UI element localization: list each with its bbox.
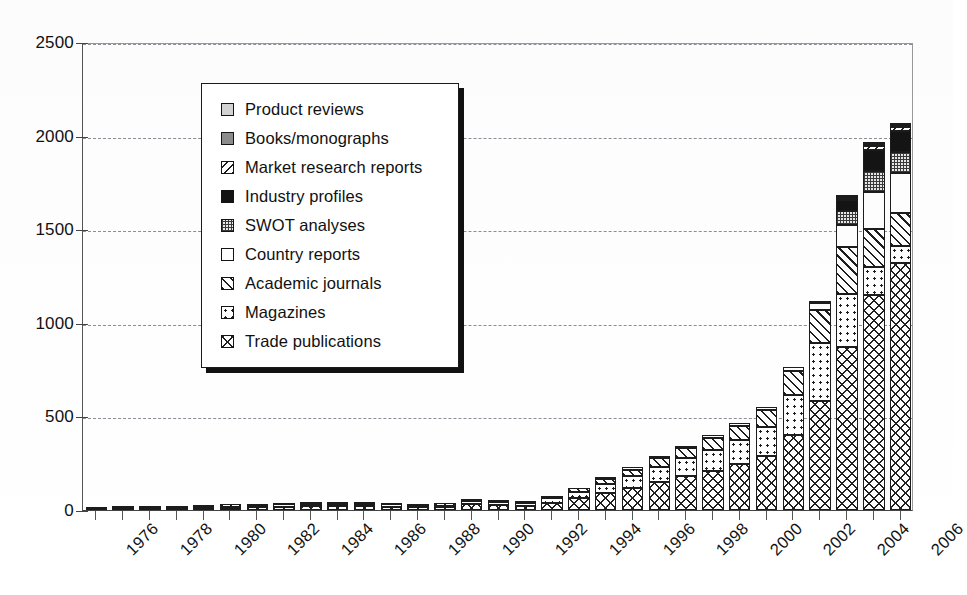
bar-1976 xyxy=(86,507,107,510)
y-axis-tick-label: 0 xyxy=(64,501,74,521)
bar-segment-swot-analyses xyxy=(809,301,830,303)
x-axis-tick-mark xyxy=(578,511,579,520)
x-axis-tick-mark xyxy=(632,511,633,520)
bar-segment-trade-publications xyxy=(407,507,428,510)
y-axis-tick-label: 1500 xyxy=(35,220,74,240)
x-axis-tick-mark xyxy=(658,511,659,520)
bar-segment-academic-journals xyxy=(515,501,536,503)
bar-1989 xyxy=(434,505,455,510)
bar-segment-magazines xyxy=(461,501,482,504)
x-axis-tick-label: 1976 xyxy=(122,519,162,559)
bar-segment-academic-journals xyxy=(354,502,375,504)
legend-item-country-reports[interactable]: Country reports xyxy=(202,240,458,269)
bar-1983 xyxy=(273,504,294,510)
bar-1994 xyxy=(568,488,589,510)
bar-segment-academic-journals xyxy=(568,488,589,492)
bar-segment-magazines xyxy=(863,267,884,295)
x-axis-tick-mark xyxy=(417,511,418,520)
x-axis-tick-label: 2004 xyxy=(873,519,913,559)
bar-segment-academic-journals xyxy=(863,229,884,266)
bar-segment-academic-journals xyxy=(381,503,402,505)
bar-2005 xyxy=(863,143,884,510)
bar-segment-swot-analyses xyxy=(836,211,857,224)
bar-1992 xyxy=(515,502,536,510)
x-axis-tick-label: 1996 xyxy=(659,519,699,559)
bar-segment-country-reports xyxy=(836,225,857,247)
x-axis-tick-mark xyxy=(363,511,364,520)
x-axis-tick-mark xyxy=(712,511,713,520)
x-axis-tick-label: 2000 xyxy=(766,519,806,559)
bar-segment-academic-journals xyxy=(675,448,696,458)
bar-segment-country-reports xyxy=(756,407,777,410)
bar-segment-magazines xyxy=(729,440,750,464)
bar-segment-academic-journals xyxy=(112,506,133,508)
bar-segment-trade-publications xyxy=(568,498,589,510)
bar-segment-trade-publications xyxy=(836,347,857,510)
legend-item-swot-analyses[interactable]: SWOT analyses xyxy=(202,211,458,240)
y-axis-tick-mark xyxy=(76,43,88,44)
bar-segment-academic-journals xyxy=(488,500,509,502)
y-axis-tick-mark xyxy=(76,230,88,231)
bar-segment-trade-publications xyxy=(863,295,884,510)
bar-segment-magazines xyxy=(354,504,375,506)
bar-segment-trade-publications xyxy=(488,505,509,510)
bar-segment-academic-journals xyxy=(783,371,804,394)
legend-item-magazines[interactable]: Magazines xyxy=(202,298,458,327)
bar-segment-product-reviews xyxy=(863,142,884,144)
bar-segment-trade-publications xyxy=(327,506,348,510)
x-axis-tick-label: 1982 xyxy=(283,519,323,559)
bar-segment-product-reviews xyxy=(890,123,911,125)
bar-segment-magazines xyxy=(675,458,696,476)
bar-segment-country-reports xyxy=(863,192,884,229)
bar-1995 xyxy=(595,478,616,510)
legend-swatch-icon xyxy=(221,103,234,116)
bar-segment-magazines xyxy=(515,503,536,505)
bar-segment-trade-publications xyxy=(300,506,321,510)
bar-segment-magazines xyxy=(568,492,589,498)
bar-segment-academic-journals xyxy=(273,503,294,505)
bar-segment-academic-journals xyxy=(622,470,643,477)
bar-segment-magazines xyxy=(809,343,830,401)
legend-item-books-monographs[interactable]: Books/monographs xyxy=(202,124,458,153)
x-axis-tick-mark xyxy=(819,511,820,520)
bar-segment-trade-publications xyxy=(809,401,830,510)
bar-segment-trade-publications xyxy=(595,493,616,510)
x-axis-tick-mark xyxy=(873,511,874,520)
x-axis-tick-mark xyxy=(149,511,150,520)
bar-segment-magazines xyxy=(890,246,911,263)
legend-item-academic-journals[interactable]: Academic journals xyxy=(202,269,458,298)
bar-1991 xyxy=(488,500,509,510)
y-axis-tick-mark xyxy=(76,137,88,138)
x-axis-tick-label: 1978 xyxy=(176,519,216,559)
bar-segment-academic-journals xyxy=(702,438,723,450)
x-axis-tick-mark xyxy=(524,511,525,520)
bar-segment-country-reports xyxy=(702,435,723,437)
legend-swatch-icon xyxy=(221,306,234,319)
x-axis-tick-label: 1994 xyxy=(605,519,645,559)
bar-segment-trade-publications xyxy=(273,507,294,510)
x-axis-tick-mark xyxy=(846,511,847,520)
legend-item-market-research-reports[interactable]: Market research reports xyxy=(202,153,458,182)
x-axis-tick-label: 2006 xyxy=(927,519,967,559)
bar-2006 xyxy=(890,124,911,510)
legend-item-industry-profiles[interactable]: Industry profiles xyxy=(202,182,458,211)
bar-segment-trade-publications xyxy=(541,503,562,510)
bar-segment-country-reports xyxy=(890,173,911,213)
legend-item-trade-publications[interactable]: Trade publications xyxy=(202,327,458,356)
bar-segment-academic-journals xyxy=(300,502,321,504)
x-axis-tick-label: 1992 xyxy=(551,519,591,559)
bar-segment-trade-publications xyxy=(783,435,804,510)
bar-segment-country-reports xyxy=(809,303,830,309)
y-axis-tick-label: 1000 xyxy=(35,314,74,334)
legend-item-product-reviews[interactable]: Product reviews xyxy=(202,95,458,124)
bar-2001 xyxy=(756,406,777,510)
bar-1980 xyxy=(193,507,214,510)
x-axis-tick-mark xyxy=(256,511,257,520)
x-axis-tick-mark xyxy=(739,511,740,520)
x-axis-tick-mark xyxy=(337,511,338,520)
legend-item-label: Trade publications xyxy=(245,332,381,351)
bar-segment-market-research-reports xyxy=(863,146,884,150)
legend-swatch-icon xyxy=(221,190,234,203)
bar-segment-books-monographs xyxy=(863,144,884,146)
